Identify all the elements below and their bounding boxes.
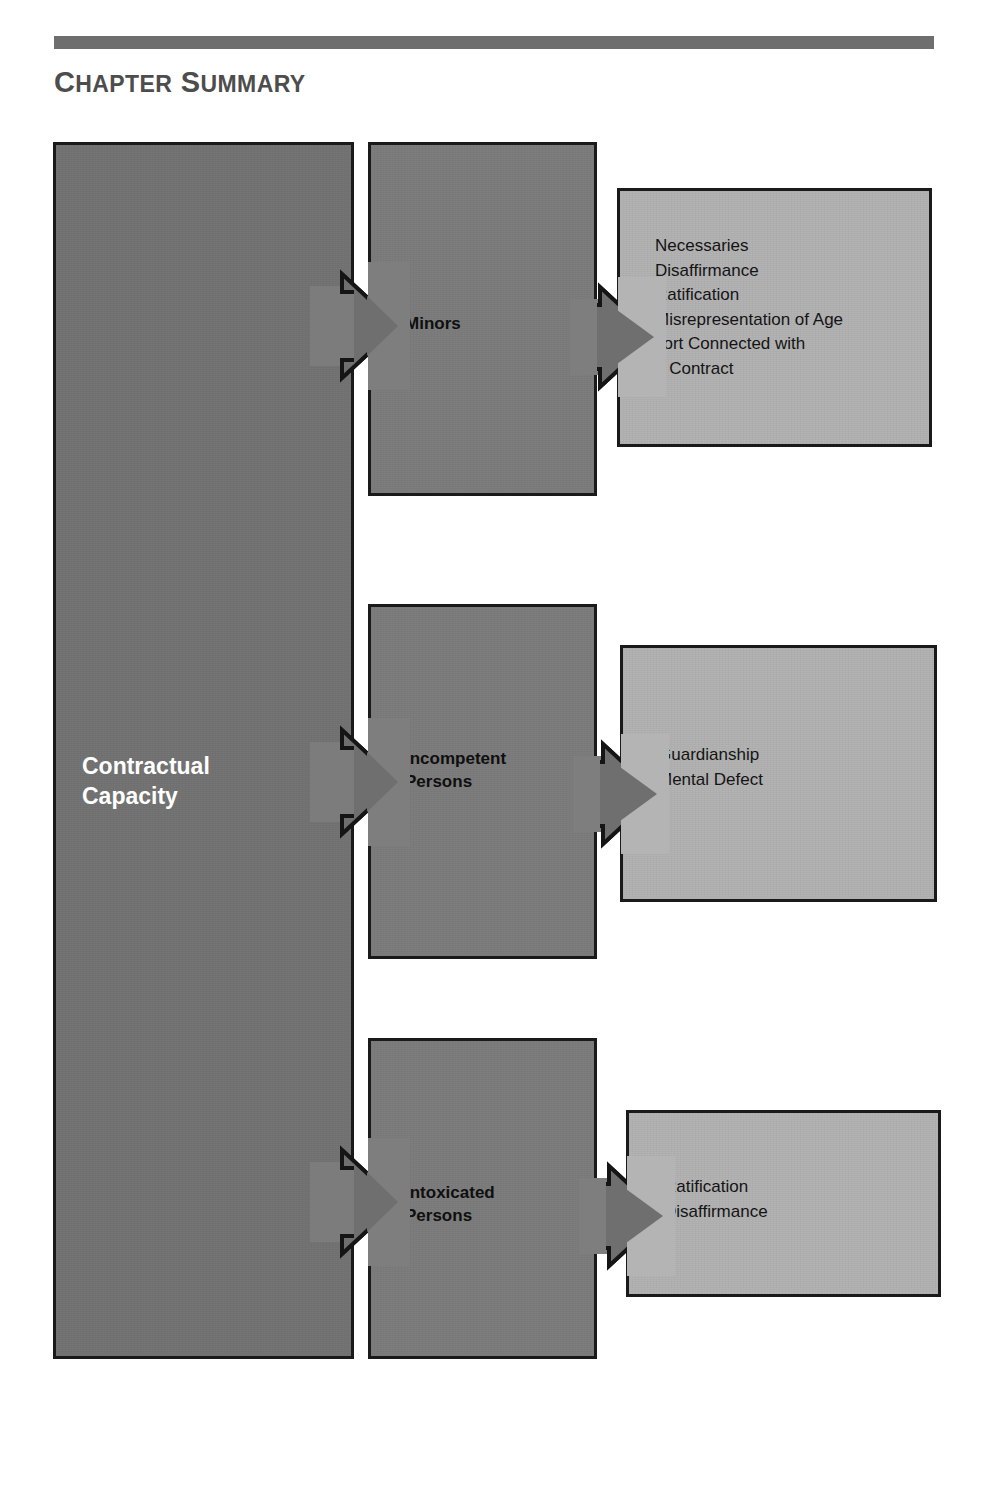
detail-node-minors-list: Necessaries Disaffirmance Ratification M…: [655, 234, 843, 381]
page-title-s: S: [181, 66, 201, 98]
page-title-chapter-rest: HAPTER: [75, 71, 172, 97]
root-node-label-line2: Capacity: [82, 781, 332, 811]
detail-node-incompetent-list: Guardianship Mental Defect: [658, 743, 763, 792]
branch-node-incompetent-label: Incompetent Persons: [405, 747, 506, 793]
branch-label-line2: Persons: [405, 1204, 495, 1227]
branch-node-minors-label: Minors: [405, 312, 461, 335]
branch-node-intoxicated-label: Intoxicated Persons: [405, 1181, 495, 1227]
page-title-c: C: [54, 66, 75, 98]
root-node-label-line1: Contractual: [82, 751, 332, 781]
detail-node-incompetent-persons: Guardianship Mental Defect: [620, 645, 937, 902]
root-node-label: Contractual Capacity: [82, 751, 332, 811]
detail-node-minors: Necessaries Disaffirmance Ratification M…: [617, 188, 932, 447]
branch-label-line2: Persons: [405, 770, 506, 793]
branch-node-minors: Minors: [368, 142, 597, 496]
chapter-summary-page: CHAPTER SUMMARY Contractual Capacity Min…: [0, 0, 990, 1494]
detail-node-intoxicated-list: Ratification Disaffirmance: [664, 1175, 768, 1224]
branch-label-line1: Intoxicated: [405, 1181, 495, 1204]
branch-label-line1: Incompetent: [405, 747, 506, 770]
branch-node-incompetent-persons: Incompetent Persons: [368, 604, 597, 959]
page-title-summary-rest: UMMARY: [201, 71, 306, 97]
detail-node-intoxicated-persons: Ratification Disaffirmance: [626, 1110, 941, 1297]
branch-label-line1: Minors: [405, 312, 461, 335]
root-node-contractual-capacity: Contractual Capacity: [53, 142, 354, 1359]
branch-node-intoxicated-persons: Intoxicated Persons: [368, 1038, 597, 1359]
header-rule: [54, 36, 934, 49]
page-title: CHAPTER SUMMARY: [54, 66, 306, 99]
